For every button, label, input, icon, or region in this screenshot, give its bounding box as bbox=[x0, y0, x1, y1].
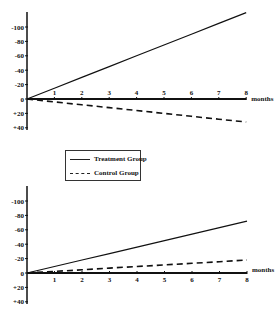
y-tick-label: +40 bbox=[13, 124, 24, 132]
y-tick-label: -60 bbox=[15, 226, 25, 234]
dashed-line-icon bbox=[70, 173, 90, 174]
control-series-line bbox=[27, 99, 246, 122]
x-tick-label: 7 bbox=[217, 89, 221, 97]
x-axis-label: months bbox=[252, 266, 274, 274]
legend-label-control: Control Group bbox=[94, 169, 139, 177]
y-tick-label: -80 bbox=[15, 38, 25, 46]
chart-panel-1: -100-80-60-40-200+20+4012345678months bbox=[11, 12, 273, 132]
y-tick-label: -80 bbox=[15, 212, 25, 220]
x-tick-label: 8 bbox=[244, 89, 248, 97]
x-tick-label: 2 bbox=[80, 276, 84, 284]
x-tick-label: 4 bbox=[135, 89, 139, 97]
y-tick-label: +20 bbox=[13, 284, 24, 292]
chart-panel-2: -100-80-60-40-200+20+4012345678months bbox=[11, 186, 274, 306]
y-tick-label: -20 bbox=[15, 255, 25, 263]
x-tick-label: 3 bbox=[108, 276, 112, 284]
y-tick-label: -40 bbox=[15, 241, 25, 249]
y-tick-label: -20 bbox=[15, 81, 25, 89]
y-tick-label: 0 bbox=[21, 96, 25, 104]
x-tick-label: 6 bbox=[190, 89, 194, 97]
x-tick-label: 5 bbox=[163, 276, 167, 284]
y-tick-label: +20 bbox=[13, 110, 24, 118]
x-tick-label: 1 bbox=[53, 276, 57, 284]
x-axis-label: months bbox=[251, 95, 273, 103]
legend-item-treatment: Treatment Group bbox=[70, 154, 147, 164]
x-tick-label: 4 bbox=[135, 276, 139, 284]
legend: Treatment Group Control Group bbox=[65, 150, 141, 181]
legend-label-treatment: Treatment Group bbox=[94, 155, 147, 163]
x-tick-label: 6 bbox=[190, 276, 194, 284]
y-tick-label: -40 bbox=[15, 67, 25, 75]
x-tick-label: 1 bbox=[53, 89, 57, 97]
treatment-series-line bbox=[27, 221, 247, 273]
x-tick-label: 8 bbox=[245, 276, 249, 284]
solid-line-icon bbox=[70, 159, 90, 160]
legend-item-control: Control Group bbox=[70, 168, 139, 178]
x-tick-label: 2 bbox=[80, 89, 84, 97]
y-tick-label: -100 bbox=[11, 198, 24, 206]
y-tick-label: -60 bbox=[15, 52, 25, 60]
x-tick-label: 3 bbox=[107, 89, 111, 97]
x-tick-label: 7 bbox=[218, 276, 222, 284]
y-tick-label: -100 bbox=[11, 24, 24, 32]
x-tick-label: 5 bbox=[162, 89, 166, 97]
treatment-series-line bbox=[27, 13, 246, 99]
y-tick-label: 0 bbox=[21, 270, 25, 278]
y-tick-label: +40 bbox=[13, 298, 24, 306]
